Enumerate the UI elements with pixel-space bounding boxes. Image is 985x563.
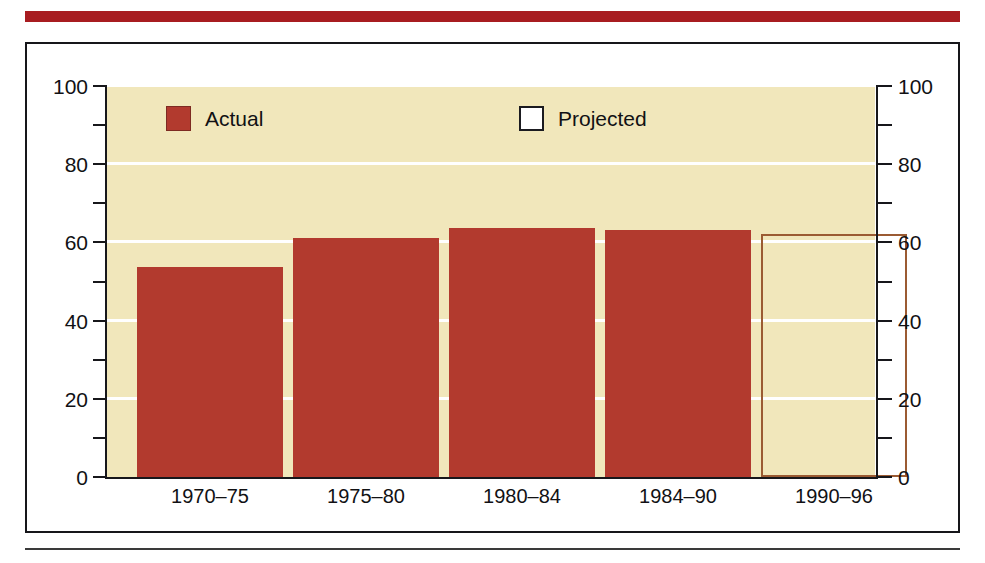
legend-swatch-actual-icon	[166, 106, 191, 131]
y-tick-right-10	[878, 437, 892, 439]
bar-1975-80[interactable]	[293, 238, 439, 477]
legend-label-actual: Actual	[205, 108, 263, 129]
y-tick-left-40	[93, 320, 107, 322]
legend-label-projected: Projected	[558, 108, 647, 129]
y-tick-right-70	[878, 202, 892, 204]
y-label-right-0: 0	[898, 467, 958, 488]
y-tick-left-90	[93, 124, 107, 126]
y-label-right-40: 40	[898, 311, 958, 332]
figure-page: 100 80 60 40 20 0 100 80 60 40 20 0 1970…	[0, 0, 985, 563]
x-label-1970-75: 1970–75	[137, 486, 283, 506]
y-tick-right-40	[878, 320, 892, 322]
y-tick-left-80	[93, 163, 107, 165]
bar-1984-90[interactable]	[605, 230, 751, 477]
y-tick-left-70	[93, 202, 107, 204]
y-label-left-40: 40	[28, 311, 88, 332]
y-label-right-60: 60	[898, 232, 958, 253]
bar-1980-84[interactable]	[449, 228, 595, 477]
legend-item-projected[interactable]: Projected	[519, 106, 647, 131]
bar-1970-75[interactable]	[137, 267, 283, 477]
y-label-right-80: 80	[898, 154, 958, 175]
y-label-left-80: 80	[28, 154, 88, 175]
y-label-right-20: 20	[898, 389, 958, 410]
x-label-1984-90: 1984–90	[605, 486, 751, 506]
gridline-100	[107, 84, 875, 87]
legend-item-actual[interactable]: Actual	[166, 106, 263, 131]
y-tick-left-100	[93, 85, 107, 87]
gridline-80	[107, 162, 875, 165]
y-tick-right-0	[878, 476, 892, 478]
bar-chart: 100 80 60 40 20 0 100 80 60 40 20 0 1970…	[0, 0, 985, 563]
y-tick-left-10	[93, 437, 107, 439]
y-tick-right-30	[878, 359, 892, 361]
y-tick-left-0	[93, 476, 107, 478]
bar-1990-96[interactable]	[761, 234, 907, 477]
x-label-1980-84: 1980–84	[449, 486, 595, 506]
x-label-1975-80: 1975–80	[293, 486, 439, 506]
y-tick-right-60	[878, 241, 892, 243]
y-label-left-20: 20	[28, 389, 88, 410]
y-tick-right-50	[878, 281, 892, 283]
y-label-right-100: 100	[898, 76, 958, 97]
y-tick-left-20	[93, 398, 107, 400]
chart-legend: Actual Projected	[107, 104, 875, 144]
legend-swatch-projected-icon	[519, 106, 544, 131]
y-tick-right-90	[878, 124, 892, 126]
y-label-left-60: 60	[28, 232, 88, 253]
bottom-rule	[25, 548, 960, 550]
y-tick-left-50	[93, 281, 107, 283]
x-label-1990-96: 1990–96	[761, 486, 907, 506]
y-tick-right-100	[878, 85, 892, 87]
y-label-left-100: 100	[28, 76, 88, 97]
x-axis-line	[105, 477, 878, 479]
y-tick-left-60	[93, 241, 107, 243]
y-label-left-0: 0	[28, 467, 88, 488]
y-tick-right-80	[878, 163, 892, 165]
y-tick-left-30	[93, 359, 107, 361]
y-tick-right-20	[878, 398, 892, 400]
